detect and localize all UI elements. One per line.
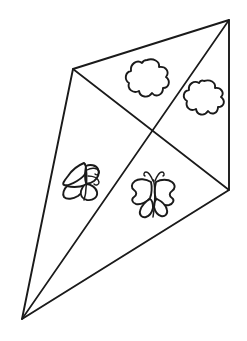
flower-top-icon [126,59,169,96]
butterfly-left-icon [63,163,99,200]
kite-drawing [0,0,247,341]
coloring-page-canvas [0,0,247,341]
butterfly-right-icon [132,172,175,217]
flower-right-icon [184,80,224,114]
